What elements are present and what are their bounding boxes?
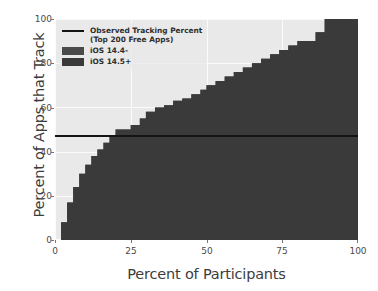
y-tick-mark-60 xyxy=(51,108,54,109)
legend-color-swatch-icon-ios-14-5-plus xyxy=(62,58,84,66)
x-tick-label-100: 100 xyxy=(338,246,378,256)
y-axis-label: Percent of Apps that Track xyxy=(31,0,47,250)
y-tick-label-60: 60 xyxy=(12,103,52,113)
x-axis-label: Percent of Participants xyxy=(55,266,358,282)
x-tick-label-25: 25 xyxy=(111,246,151,256)
legend-item-ios-14-5-plus: iOS 14.5+ xyxy=(62,57,202,66)
x-tick-mark-25 xyxy=(131,240,132,243)
legend-label-observed: Observed Tracking Percent (Top 200 Free … xyxy=(90,26,202,44)
y-tick-mark-40 xyxy=(51,152,54,153)
legend-label-ios-14-5-plus: iOS 14.5+ xyxy=(90,57,131,66)
y-tick-label-100: 100 xyxy=(12,14,52,24)
chart-figure: Percent of Apps that Track Percent of Pa… xyxy=(0,0,378,291)
legend-label-ios-14-4-minus: iOS 14.4- xyxy=(90,46,128,55)
y-tick-mark-80 xyxy=(51,63,54,64)
legend-item-ios-14-4-minus: iOS 14.4- xyxy=(62,46,202,55)
x-tick-mark-75 xyxy=(282,240,283,243)
legend: Observed Tracking Percent (Top 200 Free … xyxy=(59,23,206,69)
legend-color-swatch-icon-ios-14-4-minus xyxy=(62,47,84,55)
y-tick-mark-20 xyxy=(51,196,54,197)
x-tick-mark-100 xyxy=(357,240,358,243)
x-tick-mark-50 xyxy=(207,240,208,243)
observed-tracking-reference-line xyxy=(55,135,358,137)
y-tick-label-80: 80 xyxy=(12,58,52,68)
y-tick-label-40: 40 xyxy=(12,147,52,157)
y-tick-mark-100 xyxy=(51,19,54,20)
legend-line-swatch-icon xyxy=(62,26,84,36)
legend-item-observed-line: Observed Tracking Percent (Top 200 Free … xyxy=(62,26,202,44)
x-tick-label-75: 75 xyxy=(262,246,302,256)
y-tick-label-20: 20 xyxy=(12,191,52,201)
y-tick-label-0: 0 xyxy=(12,235,52,245)
x-tick-label-0: 0 xyxy=(35,246,75,256)
x-tick-mark-0 xyxy=(55,240,56,243)
x-tick-label-50: 50 xyxy=(187,246,227,256)
y-tick-mark-0 xyxy=(51,240,54,241)
